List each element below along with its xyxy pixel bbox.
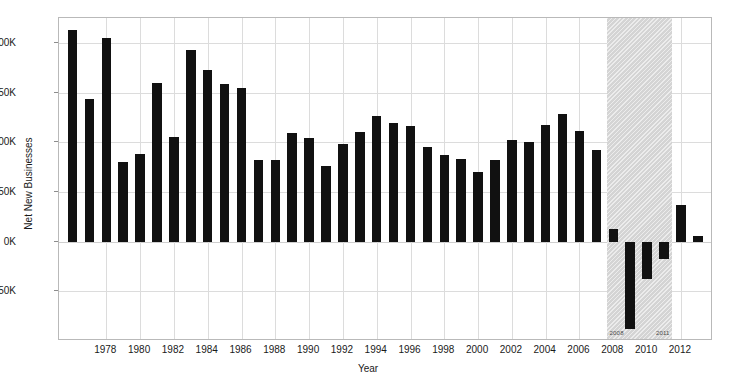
bar: [304, 138, 313, 241]
bar: [642, 242, 651, 280]
bar: [406, 126, 415, 241]
y-tick-label: 150K: [0, 86, 16, 97]
bar: [68, 30, 77, 242]
bar: [676, 205, 685, 242]
y-tick-mark: [54, 191, 58, 192]
x-tick-label: 1982: [162, 344, 184, 355]
bar: [203, 70, 212, 242]
bar: [355, 132, 364, 241]
x-tick-label: 2002: [500, 344, 522, 355]
bar: [271, 160, 280, 241]
bar: [237, 88, 246, 242]
bar: [625, 242, 634, 329]
x-tick-label: 1984: [196, 344, 218, 355]
bar: [541, 125, 550, 241]
bar: [389, 123, 398, 241]
y-tick-label: 200K: [0, 36, 16, 47]
chart-container: Net New Businesses 2008 2011 200K150K100…: [0, 0, 736, 390]
bar: [287, 133, 296, 241]
x-tick-label: 1990: [297, 344, 319, 355]
x-tick-label: 2008: [601, 344, 623, 355]
bar: [372, 116, 381, 241]
x-tick-label: 2006: [567, 344, 589, 355]
x-tick-label: 2000: [466, 344, 488, 355]
x-tick-label: 1996: [398, 344, 420, 355]
bar: [473, 172, 482, 242]
bar: [507, 140, 516, 241]
x-tick-label: 2010: [635, 344, 657, 355]
bar: [102, 38, 111, 242]
bar: [85, 99, 94, 241]
bar: [575, 131, 584, 241]
bar: [456, 159, 465, 241]
bar: [440, 155, 449, 241]
recession-shaded-region: 2008 2011: [607, 18, 672, 339]
x-tick-label: 2004: [534, 344, 556, 355]
bar: [321, 166, 330, 242]
x-tick-label: 1986: [229, 344, 251, 355]
y-tick-label: 50K: [0, 185, 16, 196]
x-tick-label: 1978: [94, 344, 116, 355]
y-tick-label: 0K: [4, 235, 16, 246]
x-tick-label: 1994: [365, 344, 387, 355]
bar: [186, 50, 195, 242]
bar: [118, 162, 127, 242]
bar: [338, 144, 347, 241]
band-start-label: 2008: [610, 330, 624, 336]
y-tick-mark: [54, 42, 58, 43]
bar: [693, 236, 702, 242]
x-tick-label: 1992: [331, 344, 353, 355]
x-tick-label: 1980: [128, 344, 150, 355]
y-tick-mark: [54, 241, 58, 242]
y-tick-mark: [54, 290, 58, 291]
bar: [524, 142, 533, 241]
y-tick-label: -50K: [0, 285, 16, 296]
bar: [254, 160, 263, 241]
band-end-label: 2011: [656, 330, 670, 336]
y-tick-mark: [54, 92, 58, 93]
bar: [152, 83, 161, 242]
bar: [609, 229, 618, 242]
bar: [490, 160, 499, 241]
y-tick-label: 100K: [0, 136, 16, 147]
x-axis-title: Year: [0, 363, 736, 374]
x-tick-label: 2012: [669, 344, 691, 355]
bar: [135, 154, 144, 241]
x-tick-label: 1998: [432, 344, 454, 355]
bar: [423, 147, 432, 241]
y-tick-mark: [54, 141, 58, 142]
bar: [659, 242, 668, 259]
gridline-vertical: [681, 18, 682, 339]
plot-area: 2008 2011: [58, 17, 712, 340]
bar: [169, 137, 178, 241]
bar: [220, 84, 229, 242]
x-tick-label: 1988: [263, 344, 285, 355]
y-axis-title: Net New Businesses: [23, 84, 34, 284]
bar: [592, 150, 601, 241]
bar: [558, 114, 567, 241]
